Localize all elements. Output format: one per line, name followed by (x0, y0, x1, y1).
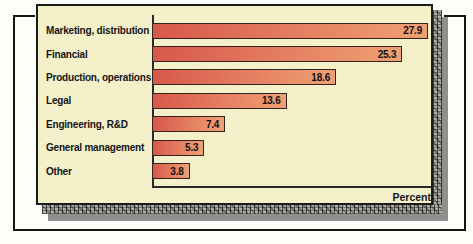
value-label: 27.9 (403, 25, 427, 36)
category-label: Production, operations (46, 72, 152, 83)
x-axis-line (152, 186, 431, 188)
panel-shadow-texture-bottom (42, 205, 442, 214)
bar-row: Financial25.3 (46, 42, 431, 65)
category-label: Marketing, distribution (46, 25, 152, 36)
value-label: 7.4 (206, 119, 224, 130)
category-label: Legal (46, 95, 152, 106)
bar: 18.6 (152, 69, 336, 85)
bar-track: 13.6 (152, 93, 431, 109)
bar-track: 27.9 (152, 23, 431, 39)
value-label: 3.8 (170, 166, 188, 177)
bar-row: Other3.8 (46, 159, 431, 182)
bar-track: 7.4 (152, 116, 431, 132)
value-label: 13.6 (262, 95, 286, 106)
category-label: General management (46, 142, 152, 153)
x-axis-label: Percent (152, 191, 431, 203)
frame-bracket-right (464, 15, 466, 231)
category-label: Engineering, R&D (46, 119, 152, 130)
category-label: Other (46, 166, 152, 177)
panel-shadow-texture-right (433, 10, 442, 214)
bar-row: Legal13.6 (46, 89, 431, 112)
bar: 3.8 (152, 163, 190, 179)
category-label: Financial (46, 49, 152, 60)
bar: 27.9 (152, 23, 428, 39)
bar-track: 3.8 (152, 163, 431, 179)
bar-row: Production, operations18.6 (46, 66, 431, 89)
bar-track: 18.6 (152, 69, 431, 85)
bar-track: 25.3 (152, 46, 431, 62)
bar-rows: Marketing, distribution27.9Financial25.3… (46, 19, 431, 183)
chart-panel: Marketing, distribution27.9Financial25.3… (36, 4, 433, 205)
bar: 13.6 (152, 93, 287, 109)
value-label: 5.3 (185, 142, 203, 153)
bar-row: General management5.3 (46, 136, 431, 159)
frame-bracket-top-left-stub (13, 15, 35, 17)
frame-bracket-left (13, 15, 15, 231)
bar-track: 5.3 (152, 140, 431, 156)
bar-row: Marketing, distribution27.9 (46, 19, 431, 42)
value-label: 18.6 (311, 72, 335, 83)
bar: 7.4 (152, 116, 225, 132)
bar-row: Engineering, R&D7.4 (46, 113, 431, 136)
value-label: 25.3 (378, 49, 402, 60)
figure: Marketing, distribution27.9Financial25.3… (0, 0, 473, 244)
bar: 25.3 (152, 46, 402, 62)
frame-bracket-bottom (13, 229, 466, 231)
bar: 5.3 (152, 140, 204, 156)
panel-shadow-gray-right (442, 17, 448, 221)
panel-shadow-gray-bottom (48, 214, 448, 221)
